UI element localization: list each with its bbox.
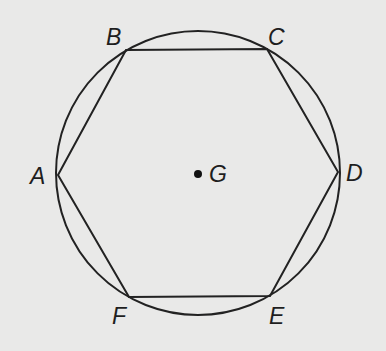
center-point-G — [194, 170, 202, 178]
label-vertex-B: B — [106, 24, 121, 50]
label-vertex-D: D — [346, 160, 363, 186]
hexagon-in-circle-diagram: G A B C D E F — [0, 0, 386, 351]
label-vertex-F: F — [112, 303, 128, 329]
label-vertex-E: E — [269, 303, 285, 329]
label-G: G — [209, 161, 227, 187]
label-vertex-A: A — [28, 163, 45, 189]
label-vertex-C: C — [268, 24, 285, 50]
